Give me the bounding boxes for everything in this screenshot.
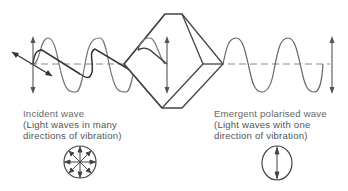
multi-direction-vibration-icon — [64, 146, 96, 178]
emergent-wave-desc-2: direction of vibration) — [214, 130, 327, 141]
incident-wave-title: Incident wave — [23, 108, 122, 119]
emergent-polarised-wave — [223, 38, 323, 92]
emergent-wave-caption: Emergent polarised wave (Light waves wit… — [214, 108, 327, 141]
incident-wave-caption: Incident wave (Light waves in many direc… — [23, 108, 122, 141]
arrowhead-icon — [31, 36, 36, 43]
single-direction-vibration-icon — [262, 146, 292, 180]
polarising-crystal — [124, 14, 223, 108]
emergent-wave-desc-1: (Light waves with one — [214, 119, 327, 130]
emergent-wave-title: Emergent polarised wave — [214, 108, 327, 119]
arrowhead-icon — [330, 36, 335, 43]
incident-wave-desc-2: directions of vibration) — [23, 130, 122, 141]
arrowhead-icon — [330, 87, 335, 94]
incident-wave-desc-1: (Light waves in many — [23, 119, 122, 130]
polarisation-diagram — [0, 0, 348, 191]
arrowhead-icon — [31, 87, 36, 94]
